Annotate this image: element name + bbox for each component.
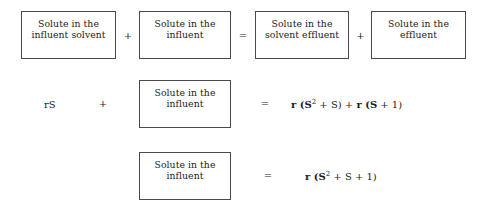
operator-plus-row1-2: + [351, 31, 370, 41]
operator-equals-row3: = [258, 171, 278, 181]
term-box-label: Solute in the influent [155, 159, 216, 182]
expression-row2-right: r (S2 + S) + r (S + 1) [291, 99, 402, 111]
expression-part-suffix: + 1) [377, 99, 402, 110]
term-box-label: Solute in the influent solvent [31, 18, 105, 41]
expression-part-suffix: + S + 1) [330, 171, 377, 182]
expression-row3-right: r (S2 + S + 1) [305, 171, 377, 183]
term-box-effluent: Solute in the effluent [371, 11, 466, 59]
term-box-label: Solute in the influent [155, 87, 216, 110]
solute-balance-diagram: Solute in the influent solvent + Solute … [0, 0, 488, 219]
operator-plus-row1-1: + [118, 31, 138, 41]
term-box-influent-solvent: Solute in the influent solvent [21, 11, 116, 59]
operator-equals-row1: = [233, 31, 253, 41]
expression-rs: rS [44, 99, 56, 111]
expression-part-middle: + S) + [316, 99, 356, 110]
term-box-label: Solute in the effluent [388, 18, 449, 41]
term-box-influent-row1: Solute in the influent [139, 11, 231, 59]
expression-part-second-prefix: r (S [356, 99, 377, 110]
operator-equals-row2: = [255, 99, 275, 109]
expression-part-prefix: r (S [305, 171, 326, 182]
term-box-solvent-effluent: Solute in the solvent effluent [255, 11, 349, 59]
term-box-label: Solute in the influent [155, 18, 216, 41]
term-box-influent-row3: Solute in the influent [139, 152, 231, 200]
operator-plus-row2: + [93, 99, 113, 109]
term-box-label: Solute in the solvent effluent [265, 18, 339, 41]
term-box-influent-row2: Solute in the influent [139, 80, 231, 128]
expression-part-prefix: r (S [291, 99, 312, 110]
